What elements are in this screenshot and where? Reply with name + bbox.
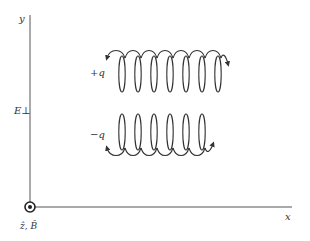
negative-charge-label: −q [90,130,105,140]
negative-charge-helix [107,114,213,156]
gyration-diagram [0,0,310,241]
origin-label: ẑ, B̂ [20,222,37,231]
field-label: E⊥ [14,106,31,116]
positive-charge-helix [107,51,228,93]
out-of-page-dot-icon [25,202,35,212]
y-axis-label: y [19,14,25,24]
positive-charge-label: +q [90,68,105,78]
x-axis-label: x [285,212,291,222]
